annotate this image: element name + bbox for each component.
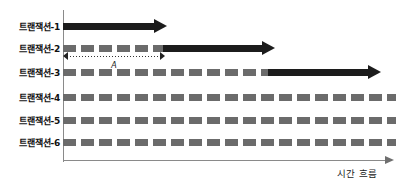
- interval-label: A: [63, 61, 165, 70]
- transaction-label-2: 트랜잭션-2: [2, 42, 60, 55]
- transaction-label-3: 트랜잭션-3: [2, 66, 60, 79]
- timeline-row: 트랜잭션-5: [0, 113, 415, 127]
- transaction-label-4: 트랜잭션-4: [2, 91, 60, 104]
- transaction-label-6: 트랜잭션-6: [2, 136, 60, 149]
- interval-left-arrowhead-icon: [63, 52, 68, 60]
- arrowhead-icon: [368, 65, 381, 79]
- timeline-row: 트랜잭션-6: [0, 135, 415, 149]
- idle-segment: [63, 139, 396, 146]
- timeline-row: 트랜잭션-1: [0, 19, 415, 33]
- interval-right-arrowhead-icon: [160, 52, 165, 60]
- arrowhead-icon: [154, 19, 167, 33]
- idle-segment: [63, 69, 268, 76]
- interval-measure: A: [63, 52, 165, 61]
- transaction-timeline-diagram: 시간 흐름 트랜잭션-1트랜잭션-2트랜잭션-3트랜잭션-4트랜잭션-5트랜잭션…: [0, 0, 415, 188]
- active-segment: [63, 23, 154, 30]
- active-segment: [163, 45, 262, 52]
- transaction-label-5: 트랜잭션-5: [2, 114, 60, 127]
- time-axis-line: [63, 160, 387, 161]
- time-axis-arrowhead-icon: [385, 156, 394, 164]
- idle-segment: [63, 117, 396, 124]
- active-segment: [268, 69, 368, 76]
- time-axis-label: 시간 흐름: [337, 166, 378, 180]
- transaction-label-1: 트랜잭션-1: [2, 20, 60, 33]
- idle-segment: [63, 45, 163, 52]
- idle-segment: [63, 94, 396, 101]
- timeline-row: 트랜잭션-4: [0, 90, 415, 104]
- interval-dotted-line: [67, 56, 161, 57]
- arrowhead-icon: [262, 41, 275, 55]
